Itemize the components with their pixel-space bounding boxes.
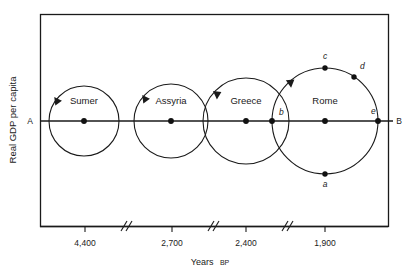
endpoint-label-a: A xyxy=(27,116,33,126)
era-label-greece: Greece xyxy=(230,95,261,106)
era-label-sumer: Sumer xyxy=(70,95,98,106)
x-axis-label-2400: 2,400 xyxy=(235,238,257,248)
marked-point-label-d: d xyxy=(360,61,365,71)
center-dot-sumer xyxy=(81,118,87,124)
x-axis-label-1900: 1,900 xyxy=(314,238,336,248)
marked-point-e xyxy=(375,118,381,124)
x-axis-label-4400: 4,400 xyxy=(74,238,96,248)
era-label-rome: Rome xyxy=(312,95,337,106)
era-label-assyria: Assyria xyxy=(155,95,187,106)
marked-point-label-c: c xyxy=(323,51,328,61)
endpoint-label-b: B xyxy=(396,116,402,126)
center-dot-assyria xyxy=(168,118,174,124)
marked-point-b xyxy=(269,118,275,124)
center-dot-greece xyxy=(243,118,249,124)
diagram-canvas: Sumer Assyria Greece Rome a b c d e A B xyxy=(0,0,413,273)
x-axis-title-suffix: BP xyxy=(220,259,230,266)
y-axis-title: Real GDP per capita xyxy=(7,76,18,164)
x-axis-title-main: Years xyxy=(191,257,214,267)
marked-point-label-b: b xyxy=(279,107,284,117)
marked-point-c xyxy=(322,65,327,70)
center-dot-rome xyxy=(322,118,328,124)
marked-point-label-e: e xyxy=(371,106,376,116)
marked-point-a xyxy=(322,171,327,176)
x-axis-label-2700: 2,700 xyxy=(161,238,183,248)
marked-point-label-a: a xyxy=(323,179,328,189)
marked-point-d xyxy=(351,74,356,79)
x-axis-title: Years BP xyxy=(191,257,230,267)
figure-container: Sumer Assyria Greece Rome a b c d e A B xyxy=(0,0,413,273)
